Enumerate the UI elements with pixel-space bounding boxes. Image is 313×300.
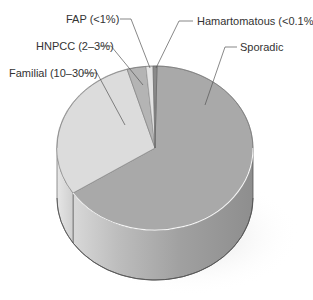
label-hnpcc: HNPCC (2–3%): [36, 40, 114, 52]
label-familial: Familial (10–30%): [9, 67, 98, 79]
pie-chart: Familial (10–30%) HNPCC (2–3%) FAP (<1%)…: [0, 0, 313, 300]
leader-line-fap: [120, 19, 150, 68]
leader-line-hamartomatous: [156, 21, 193, 68]
label-hamartomatous: Hamartomatous (<0.1%): [197, 15, 313, 27]
label-fap: FAP (<1%): [66, 13, 119, 25]
label-sporadic: Sporadic: [240, 41, 284, 53]
